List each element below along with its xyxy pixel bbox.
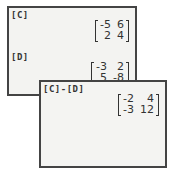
right-bracket-icon [126,20,129,42]
matrix-cell: 4 [117,31,124,42]
calculator-screen-front: [C]-[D] -2 4 -3 12 [39,80,167,168]
matrix-cell: 2 [100,31,111,42]
matrix-cell: 12 [140,105,154,116]
matrix-c-label: [C] [11,10,29,20]
matrix-d-label: [D] [11,52,29,62]
result-matrix: -2 4 -3 12 [118,94,159,116]
matrix-cell: -3 [123,105,134,116]
expression-label: [C]-[D] [43,84,84,94]
matrix-c: -5 6 2 4 [95,20,129,42]
right-bracket-icon [156,94,159,116]
